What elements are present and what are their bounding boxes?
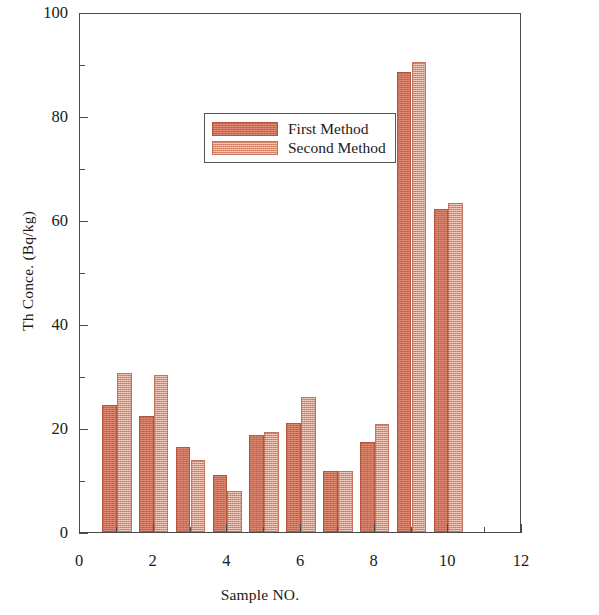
bar-second-method-sample-4 — [227, 491, 242, 532]
x-tick-label: 0 — [59, 553, 99, 570]
x-tick-label: 2 — [133, 553, 173, 570]
legend-label-second-method: Second Method — [288, 139, 386, 157]
bar-second-method-sample-2 — [154, 375, 169, 532]
y-tick-label: 80 — [22, 109, 68, 126]
bar-first-method-sample-2 — [139, 416, 154, 532]
legend-item: First Method — [212, 119, 386, 138]
legend-label-first-method: First Method — [288, 120, 369, 138]
bar-second-method-sample-6 — [301, 397, 316, 532]
x-tick-major — [374, 524, 375, 533]
y-tick-label: 60 — [22, 213, 68, 230]
y-tick-label: 0 — [22, 525, 68, 542]
y-tick-label: 20 — [22, 421, 68, 438]
bar-second-method-sample-8 — [375, 424, 390, 532]
bar-second-method-sample-3 — [191, 460, 206, 532]
bar-second-method-sample-9 — [412, 62, 427, 532]
x-tick-major — [153, 524, 154, 533]
chart-figure: Th Conce. (Bq/kg) Sample NO. First Metho… — [0, 0, 599, 615]
bar-second-method-sample-7 — [338, 471, 353, 532]
x-tick-major — [447, 524, 448, 533]
legend-swatch-second-method — [212, 141, 278, 155]
bar-first-method-sample-5 — [249, 435, 264, 532]
x-axis-title: Sample NO. — [0, 586, 520, 604]
x-tick-label: 12 — [501, 553, 541, 570]
x-tick-minor — [190, 527, 191, 533]
bars-layer — [80, 14, 520, 532]
bar-second-method-sample-5 — [264, 432, 279, 532]
bar-first-method-sample-6 — [286, 423, 301, 532]
bar-first-method-sample-1 — [102, 405, 117, 532]
chart-legend: First Method Second Method — [204, 113, 396, 163]
y-tick-major — [79, 533, 88, 534]
bar-second-method-sample-1 — [117, 373, 132, 532]
x-tick-major — [300, 524, 301, 533]
bar-first-method-sample-9 — [397, 72, 412, 532]
y-tick-major — [79, 429, 88, 430]
y-axis-title: Th Conce. (Bq/kg) — [19, 161, 37, 381]
y-tick-major — [79, 13, 88, 14]
x-tick-minor — [484, 527, 485, 533]
bar-first-method-sample-7 — [323, 471, 338, 532]
y-tick-major — [79, 117, 88, 118]
legend-swatch-first-method — [212, 122, 278, 136]
y-tick-major — [79, 221, 88, 222]
bar-second-method-sample-10 — [448, 203, 463, 532]
x-tick-label: 4 — [206, 553, 246, 570]
x-tick-label: 8 — [354, 553, 394, 570]
x-tick-label: 6 — [280, 553, 320, 570]
x-tick-minor — [337, 527, 338, 533]
y-tick-label: 100 — [22, 5, 68, 22]
plot-area: First Method Second Method — [79, 13, 521, 533]
x-tick-minor — [411, 527, 412, 533]
y-tick-minor — [79, 169, 85, 170]
y-tick-major — [79, 325, 88, 326]
x-tick-minor — [263, 527, 264, 533]
bar-first-method-sample-3 — [176, 447, 191, 532]
x-tick-minor — [116, 527, 117, 533]
y-tick-minor — [79, 65, 85, 66]
y-tick-minor — [79, 273, 85, 274]
x-tick-major — [226, 524, 227, 533]
legend-item: Second Method — [212, 138, 386, 157]
x-tick-label: 10 — [427, 553, 467, 570]
bar-first-method-sample-4 — [213, 475, 228, 532]
x-tick-major — [79, 524, 80, 533]
bar-first-method-sample-10 — [434, 209, 449, 532]
y-tick-minor — [79, 377, 85, 378]
bar-first-method-sample-8 — [360, 442, 375, 532]
y-tick-label: 40 — [22, 317, 68, 334]
x-tick-major — [521, 524, 522, 533]
y-tick-minor — [79, 481, 85, 482]
